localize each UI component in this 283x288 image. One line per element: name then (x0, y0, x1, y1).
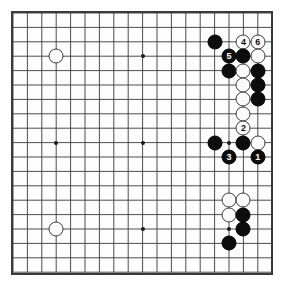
go-board-diagram: 465231 (0, 0, 283, 288)
goban-surface[interactable] (11, 11, 273, 275)
